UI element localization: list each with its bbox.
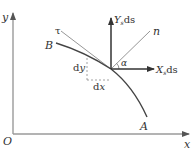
curve-start-label: B [44,39,53,52]
diagram: y x O τ B A dy dx n α Ysds Xsds [0,0,194,155]
angle-arc [117,63,119,69]
tangent-label: τ [55,25,61,36]
origin-label: O [3,135,12,148]
tangent-line [61,31,111,69]
angle-label: α [121,58,127,68]
y-force-label: Ysds [114,14,135,26]
normal-label: n [153,25,160,38]
x-force-label: Xsds [155,64,178,76]
differential-triangle: dy dx [73,58,111,92]
dy-label: dy [73,62,85,73]
dx-label: dx [93,81,105,92]
y-axis-label: y [1,11,9,24]
x-axis-label: x [184,138,191,151]
curve-end-label: A [139,120,148,133]
boundary-curve [56,43,147,117]
